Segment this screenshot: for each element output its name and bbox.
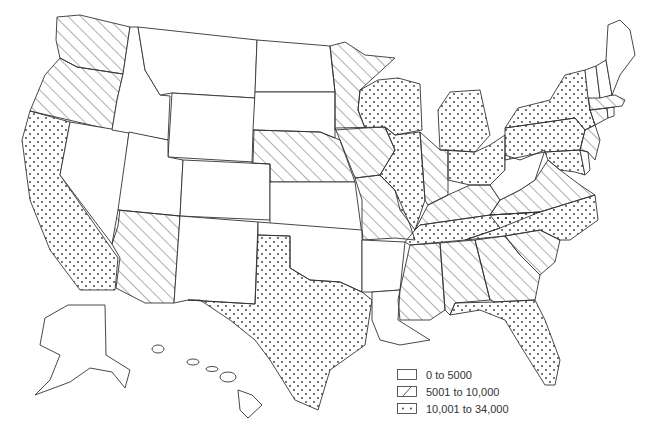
legend: 0 to 5000 5001 to 10,000 10,001 to 34,00… (397, 366, 509, 417)
state-arkansas (362, 240, 405, 292)
legend-swatch-hatched (397, 386, 417, 397)
state-arizona (112, 210, 180, 303)
state-new-york (505, 70, 595, 130)
state-mississippi (398, 243, 445, 320)
us-map (0, 0, 651, 429)
state-michigan (438, 90, 490, 152)
legend-item-high: 10,001 to 34,000 (397, 400, 509, 417)
state-montana (138, 27, 257, 98)
state-hawaii (152, 345, 262, 418)
legend-swatch-blank (397, 369, 417, 380)
state-wisconsin (358, 78, 422, 135)
state-new-mexico (174, 216, 258, 304)
state-maine (606, 20, 635, 95)
legend-swatch-dotted (397, 403, 417, 414)
state-north-dakota (255, 40, 335, 92)
legend-label: 0 to 5000 (426, 369, 472, 381)
state-wyoming (168, 93, 255, 162)
state-colorado (180, 160, 270, 220)
legend-label: 10,001 to 34,000 (426, 403, 509, 415)
state-rhode-island (607, 107, 614, 118)
legend-item-mid: 5001 to 10,000 (397, 383, 509, 400)
state-alaska (35, 305, 130, 395)
legend-label: 5001 to 10,000 (426, 386, 499, 398)
legend-item-low: 0 to 5000 (397, 366, 509, 383)
